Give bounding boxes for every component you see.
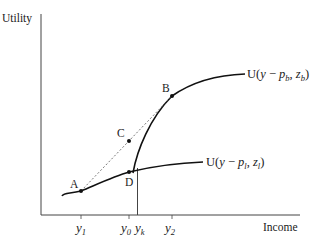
x-axis-label: Income — [263, 221, 297, 233]
curve-label-high: U(y − pb, zb) — [247, 67, 309, 83]
point-b — [170, 94, 174, 98]
point-d — [127, 170, 131, 174]
y-axis-label: Utility — [2, 12, 32, 25]
tick-label-yk: yk — [133, 220, 145, 237]
utility-income-diagram: Utility Income y1 y0 yk y2 A B C D U(y −… — [0, 0, 323, 248]
point-c — [127, 139, 131, 143]
curve-label-low: U(y − pl, zl) — [206, 155, 264, 171]
point-label-b: B — [162, 82, 170, 94]
tick-label-y0: y0 — [119, 220, 132, 237]
point-label-d: D — [125, 176, 133, 188]
tick-label-y2: y2 — [163, 220, 176, 237]
point-a — [79, 189, 83, 193]
point-label-a: A — [70, 178, 79, 190]
tick-label-y1: y1 — [74, 220, 86, 237]
point-label-c: C — [117, 127, 125, 139]
